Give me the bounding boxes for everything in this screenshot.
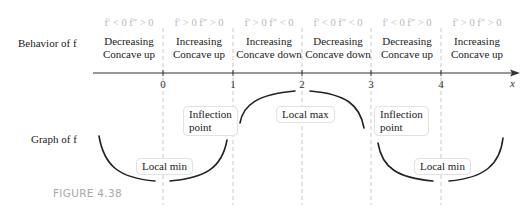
callout-inflection-point-left: Inflection point [183,106,238,136]
sign-interval-4: f′ < 0 f″ < 0 [303,17,373,28]
callout-line: Inflection [189,108,232,121]
sign-interval-2: f′ > 0 f″ > 0 [164,17,234,28]
monotonic-label: Increasing [442,35,512,48]
behavior-interval-2: Increasing Concave up [164,35,234,61]
x-axis-label: x [510,77,515,89]
callout-inflection-point-right: Inflection point [374,106,429,136]
callout-line: Inflection [380,108,423,121]
callout-line: point [189,121,232,134]
monotonic-label: Decreasing [372,35,442,48]
callout-local-min-left: Local min [136,158,193,175]
diagram-graphics [0,0,529,213]
callout-local-max: Local max [276,106,335,123]
concavity-label: Concave down [234,48,304,61]
monotonic-label: Decreasing [303,35,373,48]
concavity-label: Concave up [164,48,234,61]
tick-label-1: 1 [227,78,239,90]
sign-interval-1: f′ < 0 f″ > 0 [94,17,164,28]
sign-interval-3: f′ > 0 f″ < 0 [234,17,304,28]
monotonic-label: Decreasing [94,35,164,48]
tick-label-4: 4 [435,78,447,90]
behavior-interval-6: Increasing Concave up [442,35,512,61]
sign-interval-5: f′ < 0 f″ > 0 [372,17,442,28]
callout-line: point [380,121,423,134]
concavity-label: Concave up [94,48,164,61]
callout-local-min-right: Local min [414,158,471,175]
tick-label-0: 0 [157,78,169,90]
monotonic-label: Increasing [164,35,234,48]
monotonic-label: Increasing [234,35,304,48]
tick-label-2: 2 [296,78,308,90]
concavity-label: Concave down [303,48,373,61]
concavity-label: Concave up [372,48,442,61]
tick-label-3: 3 [365,78,377,90]
behavior-interval-4: Decreasing Concave down [303,35,373,61]
behavior-interval-3: Increasing Concave down [234,35,304,61]
graph-row-label: Graph of f [31,133,77,145]
behavior-interval-5: Decreasing Concave up [372,35,442,61]
concavity-label: Concave up [442,48,512,61]
x-axis [93,70,520,77]
behavior-interval-1: Decreasing Concave up [94,35,164,61]
behavior-row-label: Behavior of f [18,37,77,49]
figure-caption: FIGURE 4.38 [53,187,122,199]
sign-interval-6: f′ > 0 f″ > 0 [442,17,512,28]
